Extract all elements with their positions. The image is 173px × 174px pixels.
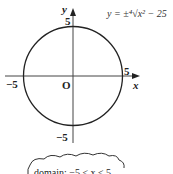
cloud-callout	[30, 153, 124, 168]
domain-callout-text: domain: −5 ≤ x ≤ 5	[34, 167, 111, 174]
x-axis-label: x	[133, 80, 139, 91]
coordinate-plot	[0, 0, 173, 174]
y-axis-label: y	[62, 4, 67, 15]
x-tick-negative: −5	[6, 79, 18, 90]
x-tick-positive: 5	[124, 66, 130, 77]
y-tick-positive: 5	[65, 16, 71, 27]
origin-label: O	[62, 80, 71, 91]
equation-label: y = ±⁴√x² − 25	[107, 8, 167, 19]
y-tick-negative: −5	[56, 132, 68, 143]
